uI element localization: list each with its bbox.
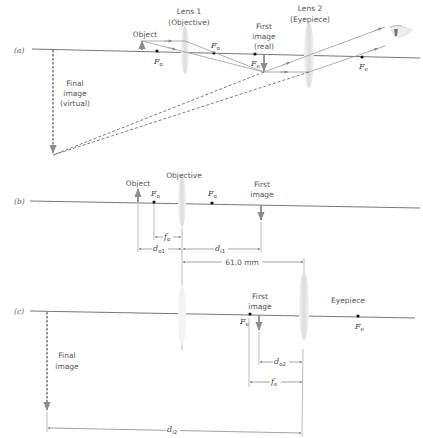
first-image-l1: First <box>256 22 272 31</box>
first-image-b-l2: image <box>250 190 274 199</box>
objective-lens <box>181 26 189 74</box>
lens2-subtitle: (Eyepiece) <box>290 15 330 24</box>
eye-icon <box>390 25 412 37</box>
object-label: Object <box>133 30 157 39</box>
first-image-c-l1: First <box>252 292 268 301</box>
eyepiece-lens-c <box>299 272 309 340</box>
fo-left-label: Fo <box>153 57 164 67</box>
focal-point-fe-right-c <box>356 314 359 317</box>
virtual-ray-1 <box>53 72 264 155</box>
focal-point-fe-left <box>253 52 256 55</box>
ray-central-objective <box>142 41 264 72</box>
optical-axis-b <box>30 201 420 208</box>
focal-point-fe-right <box>360 55 363 58</box>
panel-c-label: (c) <box>14 307 24 316</box>
dim-separation-label: 61.0 mm <box>225 258 259 267</box>
first-image-l3: (real) <box>254 42 274 51</box>
ext-line <box>302 349 303 436</box>
final-image-l2: image <box>63 89 87 98</box>
panel-c: (c) Eyepiece Fe Fe First image Final ima… <box>14 272 415 436</box>
lens1-title: Lens 1 <box>177 7 202 16</box>
fo-right-label-b: Fo <box>207 189 218 199</box>
objective-lens-faded <box>178 285 186 345</box>
final-image-l1: Final <box>66 79 83 88</box>
first-image-b-l1: First <box>254 180 270 189</box>
ray-arrowhead <box>282 62 290 65</box>
fe-right-label: Fe <box>358 62 369 72</box>
panel-a-label: (a) <box>14 46 24 55</box>
focal-point-fo-right-b <box>210 201 213 204</box>
focal-point-fo-left-b <box>152 200 155 203</box>
objective-label: Objective <box>166 171 202 180</box>
virtual-ray-2 <box>53 72 309 155</box>
focal-point-fo-left <box>155 49 158 52</box>
fo-left-label-b: Fo <box>150 189 161 199</box>
first-image-l2: image <box>252 32 276 41</box>
ray-arrowhead <box>374 28 382 31</box>
panel-b-label: (b) <box>14 197 25 206</box>
focal-point-fe-left-c <box>248 312 251 315</box>
fe-left-label-c: Fe <box>239 317 250 327</box>
ray-arrowhead <box>370 48 378 51</box>
compound-microscope-diagram: (a) Lens 1 (Objective) Lens 2 (Eyepiece)… <box>0 0 423 438</box>
object-label-b: Object <box>126 179 150 188</box>
first-image-c-l2: image <box>248 302 272 311</box>
final-image-c-l1: Final <box>58 351 75 360</box>
lens2-title: Lens 2 <box>298 4 323 13</box>
panel-a: (a) Lens 1 (Objective) Lens 2 (Eyepiece)… <box>14 4 420 155</box>
final-image-l3: (virtual) <box>60 99 90 108</box>
ray-arrowhead <box>168 48 176 50</box>
objective-lens-b <box>178 175 186 227</box>
final-image-c-l2: image <box>55 362 79 371</box>
fo-right-label: Fo <box>210 41 221 51</box>
eyepiece-label: Eyepiece <box>331 296 365 305</box>
fe-right-label-c: Fe <box>354 322 365 332</box>
lens1-subtitle: (Objective) <box>168 18 209 27</box>
